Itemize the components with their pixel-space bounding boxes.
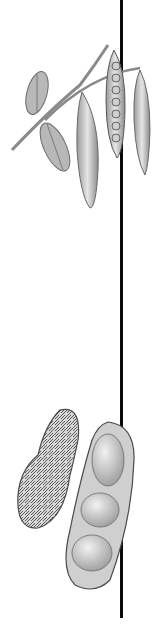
pea-branch <box>12 45 150 208</box>
botanical-drawing <box>0 0 161 634</box>
peanuts <box>18 409 134 589</box>
illustration <box>0 0 161 634</box>
